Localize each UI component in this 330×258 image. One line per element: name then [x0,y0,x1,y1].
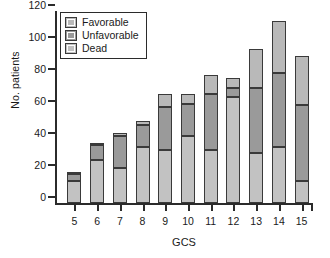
y-axis-tick-mark [48,196,55,198]
y-axis-tick-label: 40 [34,127,46,139]
y-axis-tick: 100 [7,31,55,43]
bar-segment-dead [249,153,263,203]
y-axis-tick-mark [48,36,55,38]
legend-item-label: Favorable [82,16,129,29]
legend-item: Favorable [65,16,139,29]
bar-segment-favorable [226,78,240,88]
x-axis-tick-mark [120,205,122,211]
bar-column [158,94,172,203]
y-axis-tick-label: 0 [40,191,46,203]
x-axis-tick-mark [302,205,304,211]
bar-column [249,49,263,203]
bar-column [181,94,195,203]
legend-item-label: Unfavorable [82,29,139,42]
y-axis-tick: 60 [7,95,55,107]
legend-item: Unfavorable [65,29,139,42]
x-axis-tick-mark [97,205,99,211]
bar-segment-unfavorable [90,145,104,159]
bar-column [67,173,81,203]
x-axis-tick-mark [256,205,258,211]
bar-segment-dead [204,150,218,203]
x-axis-tick-mark [233,205,235,211]
legend-item: Dead [65,42,139,55]
bar-segment-unfavorable [249,88,263,154]
bar-segment-dead [272,147,286,203]
y-axis-tick: 120 [7,0,55,11]
y-axis-tick: 20 [7,159,55,171]
bar-segment-dead [226,97,240,203]
bar-segment-favorable [113,133,127,136]
bar-column [90,144,104,203]
y-axis-tick: 40 [7,127,55,139]
bar-column [226,78,240,203]
bar-segment-dead [158,150,172,203]
bar-segment-unfavorable [204,94,218,150]
bar-segment-dead [295,181,309,203]
bar-segment-favorable [158,94,172,107]
color-swatch-icon [65,30,77,41]
chart-legend: FavorableUnfavorableDead [60,12,147,59]
x-axis-tick-mark [311,205,313,211]
bar-segment-favorable [67,172,81,174]
bar-column [113,133,127,203]
y-axis-tick-mark [48,164,55,166]
bar-column [204,75,218,203]
y-axis-tick-label: 60 [34,95,46,107]
bar-column [295,56,309,203]
x-axis-tick-mark [143,205,145,211]
bar-segment-unfavorable [136,125,150,147]
x-axis-tick-mark [279,205,281,211]
bar-segment-favorable [204,75,218,94]
bar-segment-dead [181,136,195,203]
y-axis-tick-label: 20 [34,159,46,171]
y-axis-tick-label: 80 [34,63,46,75]
bar-segment-favorable [136,121,150,124]
bar-segment-dead [90,160,104,203]
bar-segment-favorable [249,49,263,87]
y-axis-tick-mark [48,68,55,70]
y-axis-tick: 0 [7,191,55,203]
bar-segment-favorable [272,21,286,74]
y-axis-tick: 80 [7,63,55,75]
bar-segment-unfavorable [181,104,195,136]
bar-segment-unfavorable [272,73,286,147]
bar-segment-dead [67,181,81,203]
x-axis-title: GCS [55,236,313,248]
bar-segment-unfavorable [158,107,172,150]
bar-column [272,21,286,203]
bar-segment-unfavorable [113,136,127,168]
y-axis-tick-label: 120 [28,0,46,11]
x-axis-tick-mark [211,205,213,211]
bar-segment-favorable [181,94,195,104]
stacked-bar-chart: No. patients 020406080100120 56789101112… [0,0,330,258]
color-swatch-icon [65,17,77,28]
bar-segment-unfavorable [226,88,240,98]
bar-segment-favorable [90,143,104,145]
legend-item-label: Dead [82,42,107,55]
bar-segment-unfavorable [295,105,309,180]
bar-segment-favorable [295,56,309,106]
y-axis-tick-label: 100 [28,31,46,43]
y-axis-title: No. patients [9,35,21,125]
bar-segment-unfavorable [67,174,81,180]
y-axis-line [55,11,57,205]
y-axis-tick-mark [48,100,55,102]
bar-segment-dead [113,168,127,203]
x-axis-tick-mark [74,205,76,211]
bar-column [136,121,150,203]
y-axis-tick-mark [48,132,55,134]
color-swatch-icon [65,43,77,54]
x-axis-tick-mark [188,205,190,211]
bar-segment-dead [136,147,150,203]
x-axis-tick-mark [165,205,167,211]
y-axis-tick-mark [48,4,55,6]
x-axis-tick-label: 15 [289,215,315,227]
x-axis-line [55,203,313,205]
